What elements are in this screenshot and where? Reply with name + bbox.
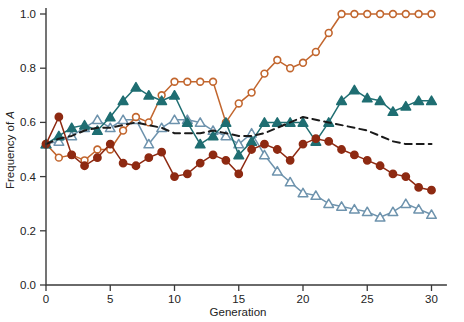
data-point — [235, 100, 242, 107]
x-tick-label: 25 — [361, 293, 374, 305]
data-point — [81, 162, 88, 169]
data-point — [158, 149, 165, 156]
data-point — [94, 154, 101, 161]
x-tick-label: 15 — [232, 293, 245, 305]
data-point — [94, 146, 101, 153]
data-point — [338, 11, 345, 18]
data-point — [402, 11, 409, 18]
y-axis-title: Frequency of A — [4, 111, 16, 189]
data-point — [260, 150, 270, 158]
data-point — [261, 140, 268, 147]
data-point — [80, 121, 90, 129]
data-point — [377, 162, 384, 169]
data-point — [248, 89, 255, 96]
data-point — [427, 210, 437, 218]
data-point — [55, 154, 62, 161]
data-point — [375, 213, 385, 221]
data-point — [210, 78, 217, 85]
data-point — [428, 187, 435, 194]
x-axis-title: Generation — [210, 306, 267, 318]
data-point — [93, 115, 103, 123]
y-tick-label: 0.8 — [20, 62, 36, 74]
y-tick-label: 0.0 — [20, 279, 36, 291]
data-point — [144, 91, 154, 99]
x-tick-label: 20 — [297, 293, 310, 305]
data-point — [350, 85, 360, 93]
data-point — [261, 70, 268, 77]
data-point — [131, 83, 141, 91]
x-tick-label: 30 — [425, 293, 438, 305]
data-point — [120, 127, 127, 134]
data-point — [209, 151, 216, 158]
data-point — [248, 146, 255, 153]
data-point — [133, 114, 140, 121]
chart-plot-area: 0.00.20.40.60.81.0051015202530 Generatio… — [0, 0, 464, 322]
data-point — [401, 199, 411, 207]
data-point — [107, 140, 114, 147]
data-point — [364, 11, 371, 18]
data-point — [428, 11, 435, 18]
y-tick-label: 0.4 — [20, 171, 37, 183]
data-point — [325, 138, 332, 145]
data-point — [170, 91, 180, 99]
data-point — [274, 57, 281, 64]
data-point — [171, 173, 178, 180]
data-point — [362, 93, 372, 101]
data-point — [414, 205, 424, 213]
data-point — [312, 49, 319, 56]
data-point — [184, 78, 191, 85]
data-point — [389, 170, 396, 177]
chart-figure: 0.00.20.40.60.81.0051015202530 Generatio… — [0, 0, 464, 322]
data-point — [351, 151, 358, 158]
y-tick-label: 0.6 — [20, 116, 36, 128]
data-point — [287, 65, 294, 72]
data-point — [184, 170, 191, 177]
data-point — [235, 170, 242, 177]
data-point — [195, 139, 205, 147]
data-point — [377, 11, 384, 18]
data-point — [120, 159, 127, 166]
data-point — [171, 78, 178, 85]
data-point — [388, 207, 398, 215]
data-point — [324, 199, 334, 207]
x-tick-label: 0 — [43, 293, 49, 305]
tick-labels-layer: 0.00.20.40.60.81.0051015202530 — [20, 8, 438, 305]
y-tick-label: 1.0 — [20, 8, 36, 20]
data-point — [299, 140, 306, 147]
x-tick-label: 10 — [168, 293, 181, 305]
data-point — [222, 157, 229, 164]
series-line-orange-open-circle — [46, 14, 432, 160]
data-point — [351, 11, 358, 18]
data-point — [401, 102, 411, 110]
data-point — [68, 151, 75, 158]
data-point — [197, 159, 204, 166]
data-point — [197, 78, 204, 85]
data-point — [132, 162, 139, 169]
data-point — [338, 146, 345, 153]
data-point — [402, 173, 409, 180]
data-point — [145, 154, 152, 161]
data-point — [390, 11, 397, 18]
data-point — [287, 157, 294, 164]
data-point — [300, 59, 307, 66]
data-point — [55, 113, 62, 120]
x-tick-label: 5 — [107, 293, 113, 305]
data-point — [415, 184, 422, 191]
data-point — [415, 11, 422, 18]
data-point — [364, 157, 371, 164]
data-point — [312, 135, 319, 142]
data-point — [274, 146, 281, 153]
y-axis-title-group: Frequency of A — [4, 111, 16, 189]
data-point — [325, 30, 332, 37]
series-layer — [41, 11, 436, 221]
y-tick-label: 0.2 — [20, 225, 36, 237]
